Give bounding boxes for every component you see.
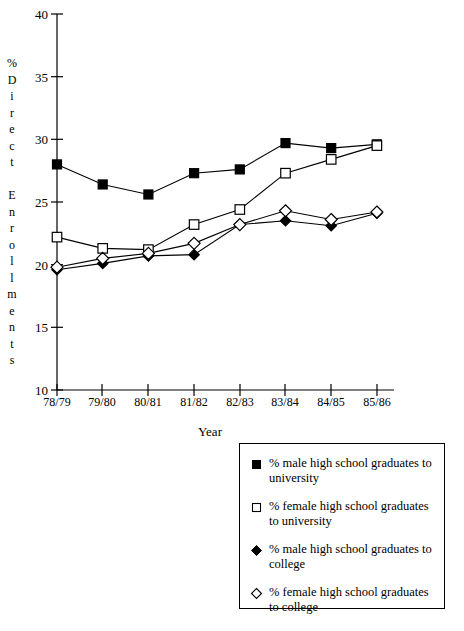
data-point-marker bbox=[235, 205, 245, 215]
data-point-marker bbox=[98, 180, 107, 189]
data-point-marker bbox=[327, 144, 336, 153]
x-tick-label-2: 80/81 bbox=[122, 396, 174, 409]
data-point-marker bbox=[190, 169, 199, 178]
series-0 bbox=[53, 139, 382, 199]
chart-legend: % male high school graduates to universi… bbox=[239, 443, 445, 609]
open-square-icon bbox=[250, 501, 264, 515]
legend-item-female-college: % female high school graduates to colleg… bbox=[250, 585, 436, 614]
legend-item-male-college: % male high school graduates to college bbox=[250, 542, 436, 571]
data-point-marker bbox=[281, 168, 291, 178]
x-tick-label-6: 84/85 bbox=[305, 396, 357, 409]
x-tick-label-3: 81/82 bbox=[168, 396, 220, 409]
filled-square-icon bbox=[250, 458, 264, 472]
data-point-marker bbox=[281, 139, 290, 148]
enrollment-line-chart: %Direct Enrollments 40 35 30 25 20 15 10 bbox=[0, 0, 464, 631]
data-point-marker bbox=[371, 206, 383, 218]
data-point-marker bbox=[325, 214, 337, 226]
data-point-marker bbox=[189, 220, 199, 230]
legend-label-female-university: % female high school graduates to univer… bbox=[269, 499, 436, 528]
x-tick-label-7: 85/86 bbox=[351, 396, 403, 409]
series-layer bbox=[51, 139, 383, 275]
open-diamond-icon bbox=[250, 587, 264, 601]
x-tick-label-5: 83/84 bbox=[259, 396, 311, 409]
data-point-marker bbox=[188, 237, 200, 249]
data-point-marker bbox=[234, 219, 246, 231]
x-tick-label-1: 79/80 bbox=[76, 396, 128, 409]
data-point-marker bbox=[372, 141, 382, 151]
data-point-marker bbox=[53, 160, 62, 169]
data-point-marker bbox=[280, 205, 292, 217]
x-axis-title: Year bbox=[150, 424, 270, 440]
data-point-marker bbox=[235, 165, 244, 174]
data-point-marker bbox=[189, 249, 199, 259]
data-point-marker bbox=[326, 155, 336, 165]
filled-diamond-icon bbox=[250, 544, 264, 558]
legend-label-male-university: % male high school graduates to universi… bbox=[269, 456, 436, 485]
data-point-marker bbox=[52, 232, 62, 242]
plot-area bbox=[0, 0, 464, 440]
legend-item-female-university: % female high school graduates to univer… bbox=[250, 499, 436, 528]
legend-item-male-university: % male high school graduates to universi… bbox=[250, 456, 436, 485]
data-point-marker bbox=[144, 190, 153, 199]
series-1 bbox=[52, 141, 381, 255]
legend-label-female-college: % female high school graduates to colleg… bbox=[269, 585, 436, 614]
legend-label-male-college: % male high school graduates to college bbox=[269, 542, 436, 571]
